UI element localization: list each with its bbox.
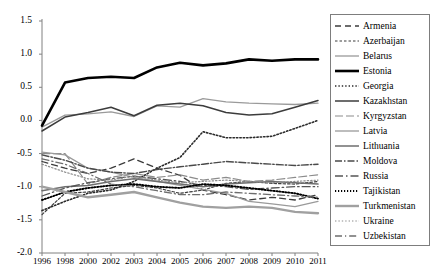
chart-figure: ArmeniaAzerbaijanBelarusEstoniaGeorgiaKa…: [0, 0, 433, 277]
legend-swatch-line: [334, 65, 360, 77]
plot-area: [0, 0, 320, 277]
legend-swatch-line: [334, 20, 360, 32]
legend-item-russia[interactable]: Russia: [334, 168, 427, 183]
legend-item-ukraine[interactable]: Ukraine: [334, 213, 427, 228]
legend-swatch-line: [334, 230, 360, 242]
y-axis-tick-label: 1.5: [6, 15, 32, 25]
legend-item-kyrgyzstan[interactable]: Kyrgyzstan: [334, 108, 427, 123]
legend-swatch-line: [334, 35, 360, 47]
legend-label: Estonia: [363, 66, 392, 76]
y-axis-tick-label: -0.5: [6, 148, 32, 158]
legend-item-estonia[interactable]: Estonia: [334, 63, 427, 78]
y-axis-tick-label: 0.0: [6, 114, 32, 124]
legend-item-armenia[interactable]: Armenia: [334, 18, 427, 33]
y-axis-tick-label: 1.0: [6, 48, 32, 58]
legend-label: Belarus: [363, 51, 392, 61]
y-axis-tick-label: -1.0: [6, 181, 32, 191]
legend-swatch-line: [334, 170, 360, 182]
legend-label: Kyrgyzstan: [363, 111, 407, 121]
legend-label: Georgia: [363, 81, 393, 91]
legend-item-kazakhstan[interactable]: Kazakhstan: [334, 93, 427, 108]
series-line-estonia: [42, 59, 318, 125]
legend-item-moldova[interactable]: Moldova: [334, 153, 427, 168]
legend-swatch-line: [334, 185, 360, 197]
y-axis-tick-label: -1.5: [6, 214, 32, 224]
legend-swatch-line: [334, 215, 360, 227]
legend-item-belarus[interactable]: Belarus: [334, 48, 427, 63]
legend-label: Azerbaijan: [363, 36, 405, 46]
legend-label: Tajikistan: [363, 186, 400, 196]
legend-swatch-line: [334, 140, 360, 152]
legend-label: Turkmenistan: [363, 201, 415, 211]
legend-item-uzbekistan[interactable]: Uzbekistan: [334, 228, 427, 243]
legend-item-lithuania[interactable]: Lithuania: [334, 138, 427, 153]
series-line-kazakhstan: [42, 101, 318, 132]
legend-label: Ukraine: [363, 216, 394, 226]
legend-item-latvia[interactable]: Latvia: [334, 123, 427, 138]
legend-label: Uzbekistan: [363, 231, 406, 241]
legend-swatch-line: [334, 110, 360, 122]
legend-swatch-line: [334, 125, 360, 137]
series-line-moldova: [42, 155, 318, 174]
legend-item-tajikistan[interactable]: Tajikistan: [334, 183, 427, 198]
legend-label: Russia: [363, 171, 388, 181]
legend-swatch-line: [334, 50, 360, 62]
legend-label: Latvia: [363, 126, 387, 136]
legend-label: Moldova: [363, 156, 397, 166]
legend-swatch-line: [334, 95, 360, 107]
legend-item-turkmenistan[interactable]: Turkmenistan: [334, 198, 427, 213]
legend-label: Armenia: [363, 21, 396, 31]
legend-item-azerbaijan[interactable]: Azerbaijan: [334, 33, 427, 48]
y-axis-tick-label: 0.5: [6, 81, 32, 91]
line-chart-svg: [0, 0, 320, 277]
legend-swatch-line: [334, 155, 360, 167]
chart-legend: ArmeniaAzerbaijanBelarusEstoniaGeorgiaKa…: [330, 14, 430, 246]
legend-label: Kazakhstan: [363, 96, 407, 106]
legend-swatch-line: [334, 200, 360, 212]
x-axis-tick-label: 2011: [303, 256, 333, 266]
series-line-kyrgyzstan: [42, 154, 318, 185]
legend-label: Lithuania: [363, 141, 399, 151]
legend-swatch-line: [334, 80, 360, 92]
legend-item-georgia[interactable]: Georgia: [334, 78, 427, 93]
